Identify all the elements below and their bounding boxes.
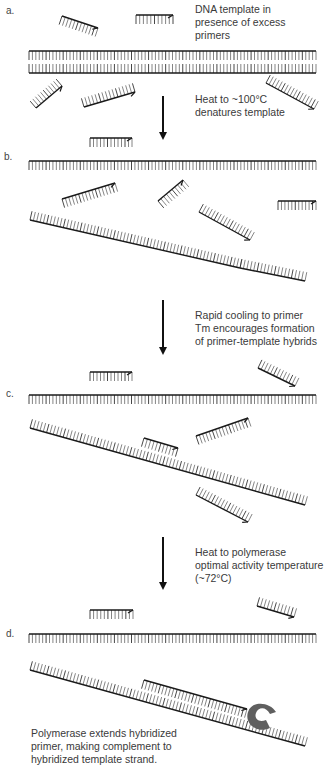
process-arrow-3-head bbox=[159, 582, 167, 590]
primer bbox=[81, 83, 135, 107]
pcr-diagram bbox=[0, 0, 329, 767]
primer bbox=[62, 183, 118, 208]
primer bbox=[141, 438, 178, 457]
primer bbox=[30, 79, 62, 108]
template-strand-2 bbox=[30, 211, 242, 268]
primer bbox=[136, 15, 173, 24]
primer bbox=[59, 16, 98, 37]
primer bbox=[199, 204, 254, 240]
template-strand-2 bbox=[30, 661, 307, 746]
primer bbox=[278, 201, 316, 210]
template-strand-1 bbox=[29, 634, 316, 643]
primer bbox=[196, 418, 251, 445]
primer bbox=[258, 360, 299, 387]
primer bbox=[257, 597, 297, 618]
primer bbox=[158, 180, 189, 208]
template-strand-top bbox=[29, 51, 316, 60]
process-arrow-2-head bbox=[159, 347, 167, 355]
primer bbox=[90, 372, 132, 381]
process-arrow-1-head bbox=[159, 132, 167, 140]
primer bbox=[196, 487, 252, 522]
primer bbox=[266, 75, 318, 109]
template-strand-2b bbox=[240, 259, 307, 281]
template-strand-1 bbox=[29, 161, 316, 170]
polymerase-enzyme bbox=[247, 704, 276, 730]
template-strand-bottom bbox=[29, 64, 316, 73]
primer bbox=[90, 610, 133, 619]
primer bbox=[90, 138, 132, 147]
template-strand-2 bbox=[30, 419, 307, 505]
template-strand-1 bbox=[29, 395, 316, 404]
